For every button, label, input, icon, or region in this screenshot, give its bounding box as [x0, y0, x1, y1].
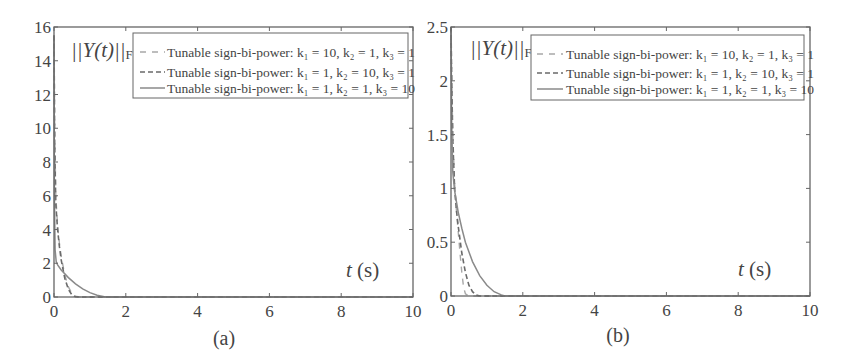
figure-b: 00.511.522.5 0246810 ||Y(t)||F Tunable s…	[0, 0, 423, 361]
chart-b-xlabel: t (s)	[738, 257, 771, 281]
x-tick-label: 2	[519, 301, 528, 320]
legend-b-label-1: Tunable sign-bi-power: k₁ = 10, k₂ = 1, …	[566, 47, 814, 62]
y-tick-label: 1.5	[427, 126, 448, 145]
chart-b-caption: (b)	[606, 324, 629, 347]
chart-b-xticklabels: 0246810	[447, 301, 819, 320]
y-tick-label: 2.5	[427, 18, 448, 37]
y-tick-label: 2	[440, 72, 449, 91]
x-tick-label: 6	[662, 301, 671, 320]
chart-b-yticklabels: 00.511.522.5	[427, 18, 448, 306]
x-tick-label: 10	[802, 301, 819, 320]
chart-b-ylabel: ||Y(t)||F	[470, 36, 532, 60]
y-tick-label: 1	[440, 179, 449, 198]
x-tick-label: 0	[447, 301, 456, 320]
legend-b-label-2: Tunable sign-bi-power: k₁ = 1, k₂ = 10, …	[566, 66, 814, 81]
x-tick-label: 4	[590, 301, 599, 320]
legend-b-label-3: Tunable sign-bi-power: k₁ = 1, k₂ = 1, k…	[566, 82, 814, 97]
chart-b-legend: Tunable sign-bi-power: k₁ = 10, k₂ = 1, …	[531, 35, 814, 100]
y-tick-label: 0.5	[427, 233, 448, 252]
x-tick-label: 8	[734, 301, 743, 320]
chart-b-svg: 00.511.522.5 0246810 ||Y(t)||F Tunable s…	[0, 0, 846, 361]
